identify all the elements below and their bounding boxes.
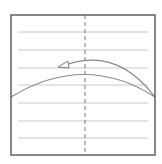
arrowhead-icon	[58, 61, 69, 68]
fold-curve	[11, 75, 155, 98]
origami-diagram	[0, 0, 162, 164]
crease-lines	[18, 32, 148, 138]
fold-arrow-curve	[68, 60, 155, 97]
